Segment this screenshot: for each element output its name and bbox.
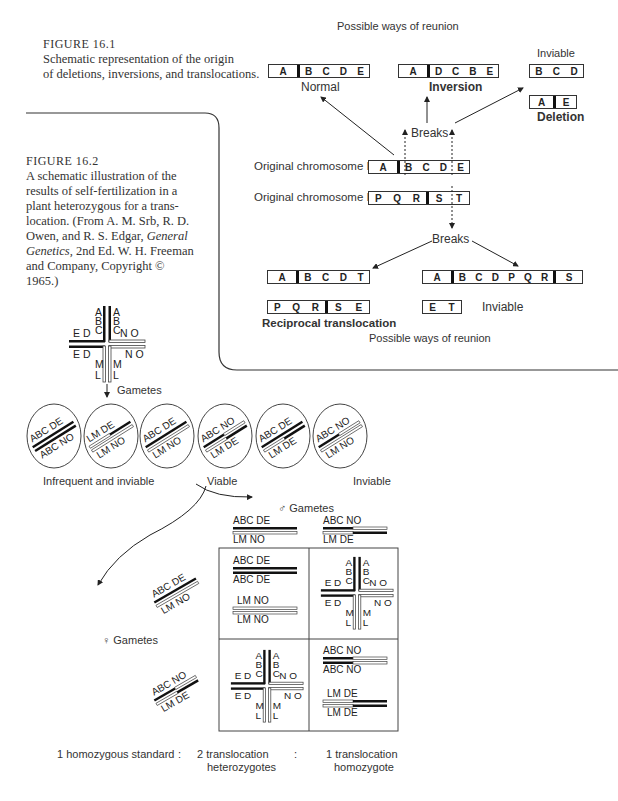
inviable-gametes-label: Inviable bbox=[353, 475, 391, 487]
svg-text:L: L bbox=[256, 710, 262, 721]
svg-text:L: L bbox=[346, 617, 352, 628]
svg-text:M: M bbox=[273, 700, 281, 711]
svg-text:LM DE: LM DE bbox=[323, 534, 354, 545]
svg-text:C: C bbox=[346, 575, 353, 586]
svg-text:L: L bbox=[95, 369, 101, 381]
svg-text:N O: N O bbox=[374, 597, 392, 608]
svg-text:E D: E D bbox=[73, 348, 91, 360]
figure-16-2-graphics: ABC ABC E DE D N ON O ML ML ABC DEABC NO… bbox=[0, 0, 618, 801]
svg-text:ABC DE: ABC DE bbox=[233, 515, 271, 526]
svg-text:E D: E D bbox=[73, 327, 91, 339]
svg-text:E D: E D bbox=[325, 577, 342, 588]
svg-text:L: L bbox=[273, 710, 279, 721]
ratio-standard: 1 homozygous standard bbox=[57, 748, 174, 760]
svg-text:M: M bbox=[346, 607, 354, 618]
svg-text:N O: N O bbox=[369, 577, 387, 588]
svg-text:N O: N O bbox=[120, 327, 139, 339]
svg-text:E D: E D bbox=[325, 597, 342, 608]
viable-label: Viable bbox=[207, 475, 237, 487]
female-gametes-label: ♀ Gametes bbox=[102, 634, 158, 646]
svg-text:E D: E D bbox=[235, 670, 252, 681]
infrequent-inviable-label: Infrequent and inviable bbox=[43, 475, 154, 487]
svg-text:C: C bbox=[256, 668, 263, 679]
svg-text:LM DE: LM DE bbox=[327, 688, 358, 699]
svg-text:ABC NO: ABC NO bbox=[323, 664, 362, 675]
svg-text:LM NO: LM NO bbox=[233, 534, 265, 545]
svg-text:ABC NO: ABC NO bbox=[323, 645, 362, 656]
svg-text:L: L bbox=[363, 617, 369, 628]
ratio-separator-1: : bbox=[178, 748, 181, 760]
svg-text:ABC DE: ABC DE bbox=[233, 555, 271, 566]
svg-text:L: L bbox=[113, 369, 119, 381]
gametes-label: Gametes bbox=[117, 384, 162, 396]
svg-text:ABC DE: ABC DE bbox=[233, 574, 271, 585]
ratio-heterozygotes: 2 translocation heterozygotes bbox=[197, 748, 276, 774]
svg-text:N O: N O bbox=[284, 690, 302, 701]
svg-text:LM DE: LM DE bbox=[327, 707, 358, 718]
svg-text:N O: N O bbox=[279, 670, 297, 681]
ratio-separator-2: : bbox=[294, 748, 297, 760]
quadrivalent-cross-main: ABC ABC E DE D N ON O ML ML bbox=[69, 306, 145, 382]
svg-text:LM NO: LM NO bbox=[237, 595, 269, 606]
svg-text:N O: N O bbox=[125, 348, 144, 360]
svg-text:LM NO: LM NO bbox=[237, 614, 269, 625]
svg-text:M: M bbox=[363, 607, 371, 618]
svg-text:ABC NO: ABC NO bbox=[323, 515, 362, 526]
ratio-homozygote: 1 translocation homozygote bbox=[326, 748, 398, 774]
svg-text:C: C bbox=[95, 324, 103, 336]
svg-text:M: M bbox=[256, 700, 264, 711]
male-gametes-label: ♂ Gametes bbox=[278, 502, 334, 514]
svg-text:E D: E D bbox=[235, 690, 252, 701]
